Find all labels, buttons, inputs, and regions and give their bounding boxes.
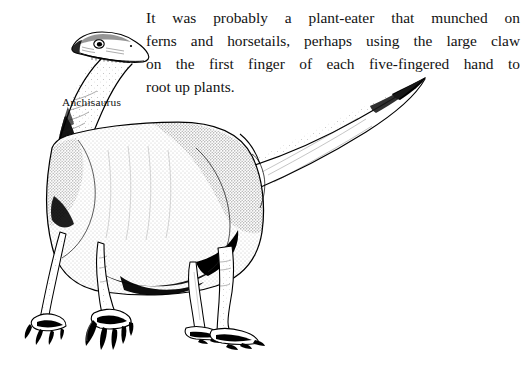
dinosaur-body: [40, 118, 280, 303]
text-line-2: ferns and horsetails, perhaps using the …: [146, 29, 520, 52]
word: that: [391, 6, 414, 29]
word: hand: [464, 52, 494, 75]
word: five-fingered: [369, 52, 449, 75]
body-paragraph: It was probably a plant-eater that munch…: [146, 6, 520, 98]
text-line-4: root up plants.: [146, 75, 520, 98]
document-page: Anchisaurus It was probably a plant-eate…: [0, 0, 530, 369]
word: plant-eater: [309, 6, 375, 29]
word: munched: [431, 6, 487, 29]
word: large: [446, 29, 476, 52]
word: claw: [491, 29, 520, 52]
word: first: [209, 52, 234, 75]
figure-caption-anchisaurus: Anchisaurus: [62, 96, 121, 108]
word: ferns: [146, 29, 177, 52]
word: probably: [213, 6, 268, 29]
word: horsetails,: [227, 29, 290, 52]
word: using: [366, 29, 399, 52]
dinosaur-eye: [94, 40, 104, 48]
word: finger: [248, 52, 285, 75]
word: each: [326, 52, 354, 75]
word: and: [191, 29, 213, 52]
word: a: [285, 6, 292, 29]
word: on: [146, 52, 161, 75]
word: to: [508, 52, 520, 75]
word: perhaps: [304, 29, 352, 52]
word: on: [505, 6, 520, 29]
word: It: [146, 6, 155, 29]
word: the: [413, 29, 432, 52]
word: was: [172, 6, 196, 29]
text-line-3: on the first finger of each five-fingere…: [146, 52, 520, 75]
text-line-1: It was probably a plant-eater that munch…: [146, 6, 520, 29]
word: of: [299, 52, 312, 75]
dinosaur-head: [72, 32, 149, 63]
word: the: [176, 52, 195, 75]
